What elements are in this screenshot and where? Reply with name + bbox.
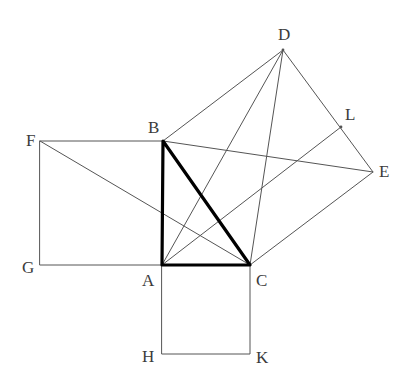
vertex-label-k: K bbox=[256, 349, 268, 366]
vertex-label-e: E bbox=[379, 163, 389, 180]
vertex-dot-d bbox=[282, 49, 285, 52]
geometry-figure: ABCDEFGHKL bbox=[0, 0, 412, 391]
square-on-leg-AC bbox=[162, 265, 250, 354]
vertex-label-h: H bbox=[142, 348, 154, 365]
vertex-label-a: A bbox=[142, 272, 154, 289]
line-A-to-L bbox=[162, 127, 341, 265]
vertex-label-f: F bbox=[26, 132, 35, 149]
right-triangle-ABC bbox=[162, 141, 250, 265]
geometry-canvas bbox=[0, 0, 412, 391]
line-A-to-D bbox=[162, 50, 283, 265]
vertex-dot-l bbox=[340, 126, 343, 129]
vertex-label-c: C bbox=[256, 272, 267, 289]
vertex-label-d: D bbox=[278, 26, 290, 43]
vertex-label-g: G bbox=[22, 259, 34, 276]
vertex-label-l: L bbox=[345, 106, 355, 123]
vertex-label-b: B bbox=[148, 119, 159, 136]
line-F-to-C bbox=[40, 141, 250, 265]
bold-line-layer bbox=[162, 141, 250, 265]
